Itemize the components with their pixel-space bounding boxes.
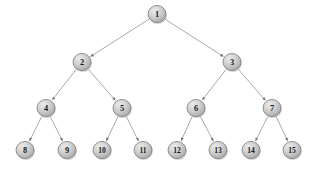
node-label: 7 <box>270 104 274 113</box>
edge-line <box>165 19 224 56</box>
tree-node[interactable]: 5 <box>113 99 132 118</box>
node-label: 1 <box>155 10 159 19</box>
tree-node[interactable]: 9 <box>58 141 77 160</box>
edge-line <box>88 69 115 100</box>
tree-node[interactable]: 3 <box>223 53 242 72</box>
edge-line <box>106 117 118 141</box>
node-label: 12 <box>173 146 181 155</box>
edge-line <box>52 69 76 100</box>
node-label: 8 <box>23 146 27 155</box>
tree-node[interactable]: 4 <box>37 99 56 118</box>
node-label: 2 <box>80 58 84 67</box>
node-label: 3 <box>230 58 234 67</box>
tree-edge <box>52 69 76 100</box>
tree-edge <box>50 116 62 141</box>
tree-node[interactable]: 6 <box>187 99 206 118</box>
tree-edge <box>181 117 192 141</box>
tree-edge <box>255 116 267 141</box>
tree-node[interactable]: 14 <box>242 141 261 160</box>
node-label: 10 <box>98 146 106 155</box>
edge-layer <box>29 19 287 141</box>
edge-line <box>181 117 192 141</box>
tree-edge <box>126 116 138 141</box>
tree-node[interactable]: 7 <box>263 99 282 118</box>
edge-line <box>276 117 288 141</box>
node-label: 13 <box>214 146 222 155</box>
tree-edge <box>202 69 226 100</box>
tree-diagram-canvas: 123456789101112131415 <box>0 0 309 171</box>
node-label: 11 <box>139 146 146 155</box>
tree-node[interactable]: 15 <box>283 141 302 160</box>
tree-edge <box>165 19 224 56</box>
node-label: 6 <box>194 104 198 113</box>
tree-node[interactable]: 2 <box>73 53 92 72</box>
tree-node[interactable]: 8 <box>16 141 35 160</box>
tree-edge <box>29 116 41 141</box>
tree-edge <box>106 117 118 141</box>
edge-line <box>90 19 149 56</box>
tree-node[interactable]: 1 <box>148 5 167 24</box>
edge-line <box>29 116 41 141</box>
tree-edge <box>238 69 265 100</box>
edge-line <box>50 116 62 141</box>
node-label: 5 <box>120 104 124 113</box>
tree-edge <box>200 116 213 141</box>
tree-edge <box>276 117 288 141</box>
edge-line <box>255 116 267 141</box>
edge-line <box>200 116 213 141</box>
tree-edge <box>88 69 115 100</box>
edge-line <box>126 116 138 141</box>
edge-line <box>238 69 265 100</box>
tree-diagram-svg: 123456789101112131415 <box>0 0 309 171</box>
edge-line <box>202 69 226 100</box>
node-label: 15 <box>288 146 296 155</box>
node-layer: 123456789101112131415 <box>16 5 302 160</box>
tree-node[interactable]: 11 <box>134 141 153 160</box>
node-label: 9 <box>65 146 69 155</box>
node-label: 14 <box>247 146 255 155</box>
tree-node[interactable]: 10 <box>93 141 112 160</box>
tree-node[interactable]: 12 <box>168 141 187 160</box>
tree-node[interactable]: 13 <box>209 141 228 160</box>
tree-edge <box>90 19 149 56</box>
